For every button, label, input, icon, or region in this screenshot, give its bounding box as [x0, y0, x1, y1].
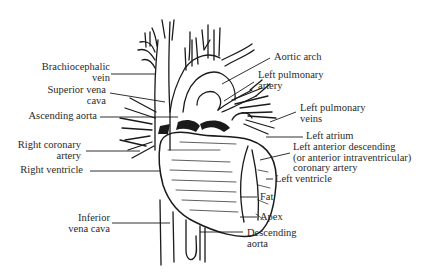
label-line: Inferior: [50, 213, 110, 224]
label-left-anterior-descending: Left anterior descending (or anterior in…: [293, 142, 411, 174]
label-line: Fat: [260, 192, 273, 203]
label-line: Aortic arch: [274, 52, 322, 63]
label-fat: Fat: [260, 192, 273, 203]
label-line: artery: [6, 151, 81, 162]
label-line: veins: [300, 114, 366, 125]
label-line: Right coronary: [6, 140, 81, 151]
label-line: Left anterior descending: [293, 142, 411, 153]
svc-outline-left: [155, 40, 158, 150]
label-line: Apex: [260, 212, 283, 223]
label-line: vena cava: [50, 224, 110, 235]
label-line: Left pulmonary: [300, 103, 366, 114]
label-left-ventricle: Left ventricle: [275, 174, 332, 185]
heart-anatomy-diagram: Brachiocephalic vein Superior vena cava …: [0, 0, 425, 273]
label-line: Brachiocephalic: [30, 62, 110, 73]
label-line: Descending: [247, 228, 297, 239]
label-line: cava: [30, 96, 106, 107]
label-line: artery: [258, 81, 324, 92]
label-apex: Apex: [260, 212, 283, 223]
label-left-pulmonary-artery: Left pulmonary artery: [258, 70, 324, 91]
label-line: aorta: [247, 239, 297, 250]
label-line: Superior vena: [30, 85, 106, 96]
label-right-coronary-artery: Right coronary artery: [6, 140, 81, 161]
label-aortic-arch: Aortic arch: [274, 52, 322, 63]
leader-left-anterior-descending: [260, 153, 290, 160]
leader-left-pulmonary-veins: [270, 112, 296, 122]
label-line: Ascending aorta: [10, 111, 97, 122]
label-line: vein: [30, 73, 110, 84]
label-left-pulmonary-veins: Left pulmonary veins: [300, 103, 366, 124]
label-line: Left atrium: [306, 131, 354, 142]
label-ascending-aorta: Ascending aorta: [10, 111, 97, 122]
label-right-ventricle: Right ventricle: [6, 165, 83, 176]
label-superior-vena-cava: Superior vena cava: [30, 85, 106, 106]
label-line: coronary artery: [293, 163, 411, 174]
label-line: Left ventricle: [275, 174, 332, 185]
svc-outline-right: [169, 22, 170, 150]
label-inferior-vena-cava: Inferior vena cava: [50, 213, 110, 234]
leader-superior-vena-cava: [110, 93, 165, 102]
label-left-atrium: Left atrium: [306, 131, 354, 142]
label-brachiocephalic-vein: Brachiocephalic vein: [30, 62, 110, 83]
label-descending-aorta: Descending aorta: [247, 228, 297, 249]
label-line: Right ventricle: [6, 165, 83, 176]
label-line: Left pulmonary: [258, 70, 324, 81]
